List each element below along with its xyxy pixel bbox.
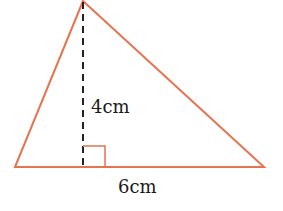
triangle xyxy=(15,1,264,167)
right-angle-marker xyxy=(83,146,105,167)
triangle-diagram: 4cm 6cm xyxy=(0,0,283,211)
height-label: 4cm xyxy=(91,96,130,117)
base-label: 6cm xyxy=(118,176,157,197)
